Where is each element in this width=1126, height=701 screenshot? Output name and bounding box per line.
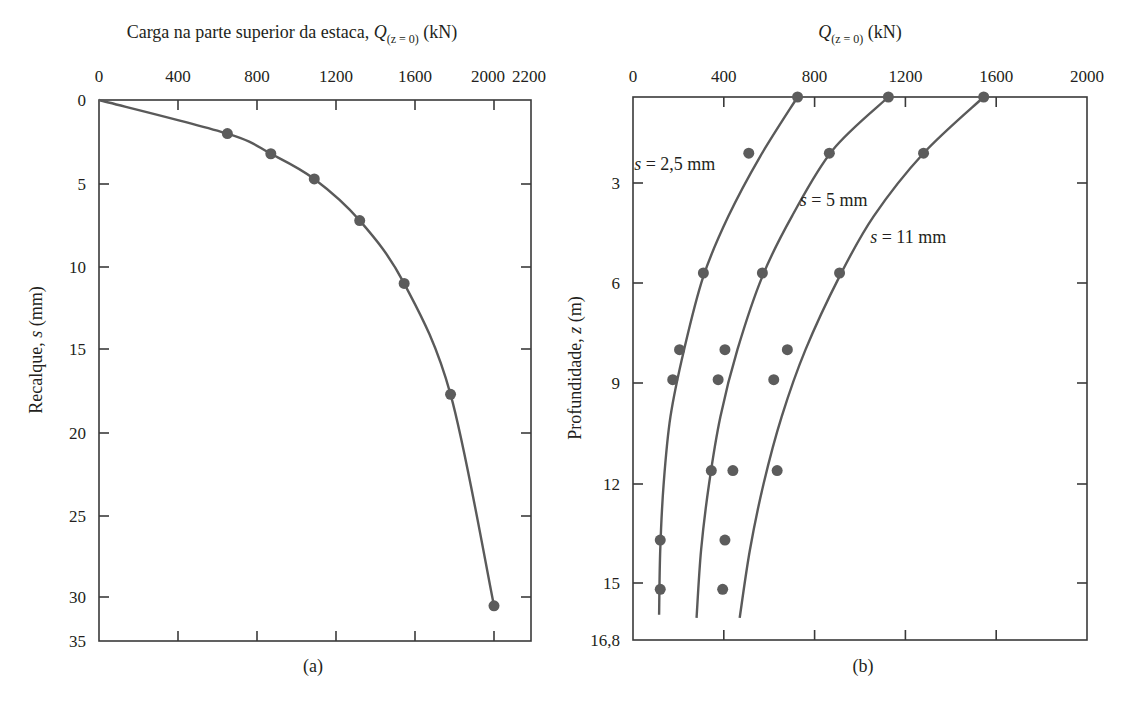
chart-a-y-axis-label: Recalque, s (mm) xyxy=(26,286,47,413)
chart-b-x-tick-labels: 0400800120016002000 xyxy=(629,67,1104,86)
data-point xyxy=(757,268,768,279)
chart-a-y-tick-labels: 05101520253035 xyxy=(69,91,86,651)
chart-b-title: Q(z = 0) (kN) xyxy=(818,22,902,46)
y-tick-label: 9 xyxy=(612,374,621,393)
x-tick-label: 1200 xyxy=(319,67,353,86)
chart-a-title: Carga na parte superior da estaca, Q(z =… xyxy=(127,22,458,46)
data-point xyxy=(706,465,717,476)
y-tick-label: 6 xyxy=(612,274,621,293)
data-point xyxy=(824,148,835,159)
y-tick-label: 5 xyxy=(78,175,87,194)
y-tick-label: 15 xyxy=(69,340,86,359)
chart-b-series: s = 2,5 mms = 5 mms = 11 mm xyxy=(634,92,989,618)
data-point xyxy=(719,344,730,355)
data-point xyxy=(743,148,754,159)
y-tick-label: 35 xyxy=(69,632,86,651)
x-tick-label: 1600 xyxy=(398,67,432,86)
x-tick-label: 800 xyxy=(244,67,270,86)
data-point xyxy=(445,389,456,400)
data-point xyxy=(772,465,783,476)
data-point xyxy=(354,215,365,226)
data-point xyxy=(768,374,779,385)
data-point xyxy=(399,278,410,289)
series-label: s = 5 mm xyxy=(800,190,868,210)
data-point xyxy=(727,465,738,476)
x-tick-label: 800 xyxy=(802,67,828,86)
depth-curve-2 xyxy=(740,97,984,618)
data-point xyxy=(698,268,709,279)
x-tick-label: 0 xyxy=(629,67,638,86)
data-point xyxy=(713,374,724,385)
chart-b-y-axis-label: Profundidade, z (m) xyxy=(565,296,586,440)
y-tick-label: 15 xyxy=(603,574,620,593)
data-point xyxy=(655,584,666,595)
x-tick-label: 1600 xyxy=(979,67,1013,86)
y-tick-label: 25 xyxy=(69,507,86,526)
x-tick-label: 0 xyxy=(95,67,104,86)
x-tick-label: 2000 xyxy=(1070,67,1104,86)
series-label: s = 11 mm xyxy=(870,227,946,247)
data-point xyxy=(265,148,276,159)
y-tick-label: 0 xyxy=(78,91,87,110)
data-point xyxy=(655,535,666,546)
y-tick-label: 12 xyxy=(603,475,620,494)
x-tick-label: 2000 xyxy=(471,67,505,86)
chart-a-series xyxy=(99,100,500,611)
data-point xyxy=(309,173,320,184)
figure: Carga na parte superior da estaca, Q(z =… xyxy=(0,0,1126,701)
chart-b-caption: (b) xyxy=(853,656,874,677)
y-tick-label: 16,8 xyxy=(590,631,620,650)
y-tick-label: 3 xyxy=(612,174,621,193)
load-settlement-curve xyxy=(99,100,494,606)
data-point xyxy=(883,92,894,103)
data-point xyxy=(978,92,989,103)
x-tick-label: 400 xyxy=(711,67,737,86)
chart-a-load-settlement: Carga na parte superior da estaca, Q(z =… xyxy=(26,22,546,677)
data-point xyxy=(667,374,678,385)
data-point xyxy=(719,535,730,546)
chart-b-y-tick-labels: 369121516,8 xyxy=(590,174,620,650)
data-point xyxy=(489,600,500,611)
data-point xyxy=(792,92,803,103)
data-point xyxy=(918,148,929,159)
data-point xyxy=(834,268,845,279)
x-tick-label: 1200 xyxy=(888,67,922,86)
series-label: s = 2,5 mm xyxy=(634,154,715,174)
chart-a-caption: (a) xyxy=(303,656,323,677)
y-tick-label: 20 xyxy=(69,424,86,443)
data-point xyxy=(222,128,233,139)
chart-a-x-tick-labels: 04008001200160020002200 xyxy=(95,67,546,86)
x-tick-label: 2200 xyxy=(512,67,546,86)
x-tick-label: 400 xyxy=(165,67,191,86)
data-point xyxy=(674,344,685,355)
data-point xyxy=(717,584,728,595)
data-point xyxy=(782,344,793,355)
chart-b-load-depth: Q(z = 0) (kN) 0400800120016002000 369121… xyxy=(565,22,1104,677)
y-tick-label: 10 xyxy=(69,258,86,277)
y-tick-label: 30 xyxy=(69,588,86,607)
